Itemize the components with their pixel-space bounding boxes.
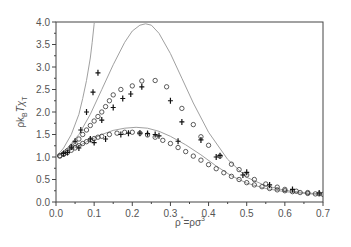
series-sim-circles-low — [58, 130, 326, 197]
circle-marker — [161, 138, 165, 142]
cross-marker — [128, 91, 133, 97]
circle-marker — [130, 84, 134, 88]
circle-marker — [183, 149, 187, 153]
circle-marker — [103, 104, 107, 108]
x-tick-label: 0.1 — [87, 208, 101, 219]
circle-marker — [168, 141, 172, 145]
circle-marker — [176, 145, 180, 149]
circle-marker — [199, 158, 203, 162]
series-sim-crosses — [61, 70, 322, 196]
x-tick-label: 0.6 — [278, 208, 292, 219]
cross-marker — [137, 130, 142, 136]
cross-marker — [90, 89, 95, 95]
y-tick-label: 0.0 — [36, 197, 50, 208]
cross-marker — [84, 109, 89, 115]
y-axis-ticks: 0.00.51.01.52.02.53.03.54.0 — [36, 17, 56, 208]
circle-marker — [84, 128, 88, 132]
y-tick-label: 3.0 — [36, 62, 50, 73]
x-axis-label: ρ*=ρσ3 — [175, 215, 205, 228]
circle-marker — [111, 93, 115, 97]
circle-marker — [140, 79, 144, 83]
circle-marker — [107, 132, 111, 136]
circle-marker — [107, 99, 111, 103]
x-tick-label: 0.0 — [49, 208, 63, 219]
x-tick-label: 0.7 — [316, 208, 330, 219]
cross-marker — [179, 119, 184, 125]
y-tick-label: 1.0 — [36, 152, 50, 163]
y-tick-label: 0.5 — [36, 174, 50, 185]
circle-marker — [96, 114, 100, 118]
plot-frame — [56, 22, 323, 202]
y-tick-label: 2.0 — [36, 107, 50, 118]
circle-marker — [191, 154, 195, 158]
circle-marker — [164, 85, 168, 89]
circle-marker — [77, 137, 81, 141]
y-axis-label: ρkBTχT — [15, 96, 28, 128]
cross-marker — [76, 145, 81, 151]
y-tick-label: 3.5 — [36, 39, 50, 50]
chart: 0.00.10.20.30.40.50.60.7 0.00.51.01.52.0… — [0, 0, 351, 247]
x-tick-label: 0.5 — [240, 208, 254, 219]
circle-marker — [153, 78, 157, 82]
circle-marker — [191, 122, 195, 126]
circle-marker — [122, 130, 126, 134]
series-theory-high-peak — [56, 24, 323, 195]
y-tick-label: 1.5 — [36, 129, 50, 140]
circle-marker — [214, 167, 218, 171]
circle-marker — [119, 87, 123, 91]
cross-marker — [95, 70, 100, 76]
series-theory-steep — [56, 4, 96, 157]
circle-marker — [206, 162, 210, 166]
circle-marker — [100, 110, 104, 114]
cross-marker — [111, 105, 116, 111]
y-tick-label: 4.0 — [36, 17, 50, 28]
circle-marker — [88, 123, 92, 127]
circle-marker — [180, 106, 184, 110]
circle-marker — [206, 143, 210, 147]
x-tick-label: 0.2 — [125, 208, 139, 219]
circle-marker — [130, 130, 134, 134]
y-tick-label: 2.5 — [36, 84, 50, 95]
cross-marker — [168, 98, 173, 104]
cross-marker — [120, 96, 125, 102]
plot-border — [56, 22, 323, 202]
cross-marker — [139, 84, 144, 90]
circle-marker — [92, 119, 96, 123]
series-layer — [56, 4, 325, 197]
